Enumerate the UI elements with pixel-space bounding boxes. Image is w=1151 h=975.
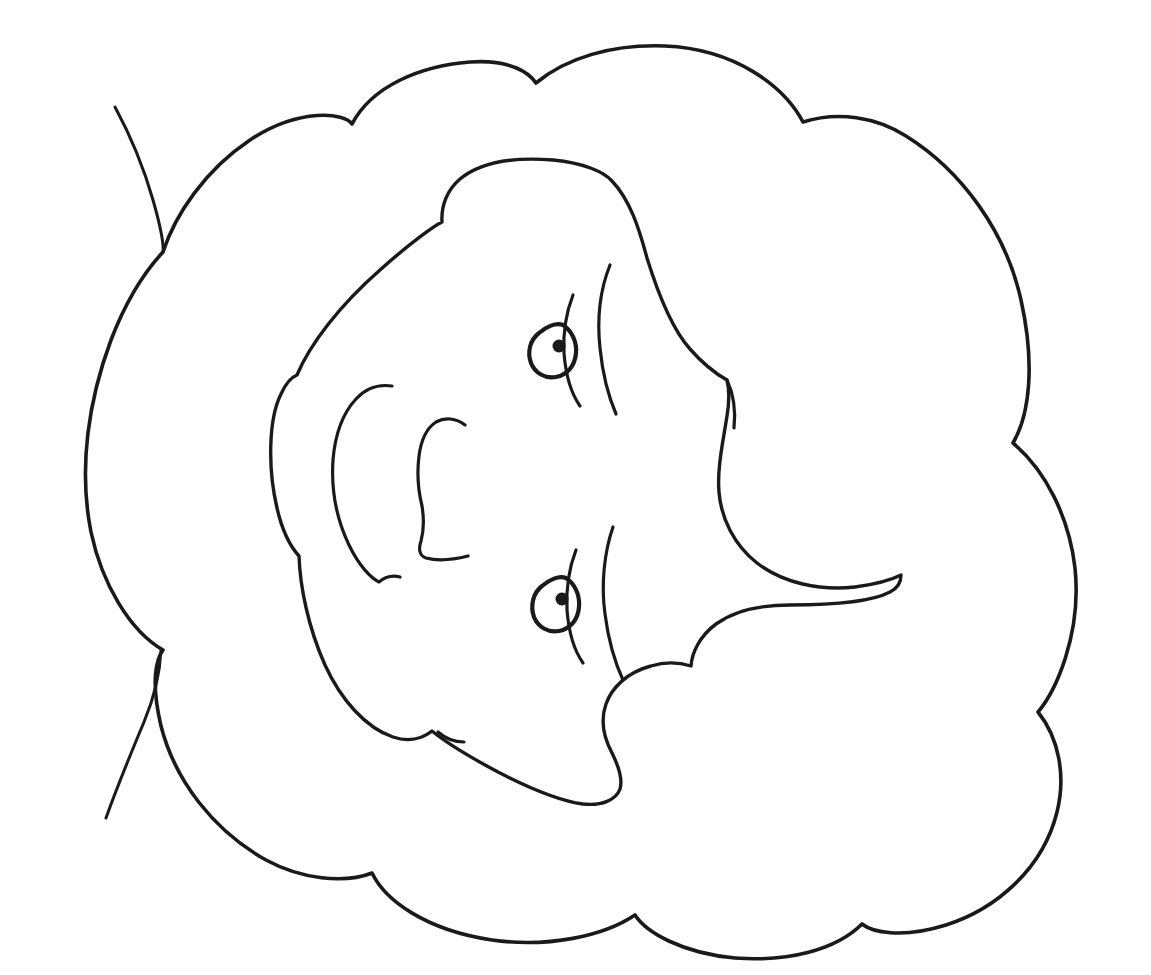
line-drawing-canvas — [0, 0, 1151, 975]
artboard — [0, 0, 1151, 975]
lower-pupil-icon — [556, 593, 569, 606]
canvas-background — [0, 0, 1151, 975]
upper-pupil-icon — [553, 340, 566, 353]
